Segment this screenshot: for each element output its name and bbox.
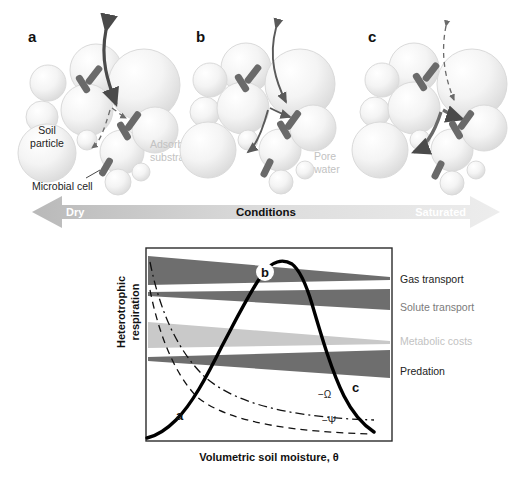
panel-c-letter: c <box>368 28 376 45</box>
soil-particle-label-line1: Soil <box>38 124 56 136</box>
wedge-label-gas-transport: Gas transport <box>400 273 464 285</box>
microbial-cell-label: Microbial cell <box>32 180 93 192</box>
wedge-label-metabolic-costs: Metabolic costs <box>400 335 472 347</box>
label-minus-psi: −Ψ <box>322 415 336 426</box>
x-axis-label: Volumetric soil moisture, θ <box>199 451 339 463</box>
panel-b-letter: b <box>196 28 205 45</box>
figure-root: a <box>0 0 532 478</box>
label-minus-omega: −Ω <box>318 389 332 400</box>
figure-svg: a <box>0 0 532 478</box>
pore-water-label-line1: Pore <box>314 150 336 162</box>
gradient-label-dry: Dry <box>66 206 85 218</box>
panel-a-letter: a <box>28 28 37 45</box>
marker-c-label: c <box>352 380 359 395</box>
wedge-label-predation: Predation <box>400 365 445 377</box>
y-axis-label-line2: respiration <box>129 283 141 340</box>
marker-a-label: a <box>176 408 184 423</box>
gradient-label-conditions: Conditions <box>236 206 296 218</box>
y-axis-label-line1: Heterotrophic <box>115 276 127 348</box>
gradient-label-saturated: Saturated <box>415 206 466 218</box>
wedge-label-solute-transport: Solute transport <box>400 301 474 313</box>
marker-b-label: b <box>261 265 269 280</box>
pore-water-label-line2: water <box>313 163 340 175</box>
soil-particle-label-line2: particle <box>30 137 64 149</box>
